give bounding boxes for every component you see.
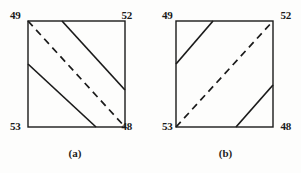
panel-b-corner-label-bottom-left: 53 xyxy=(162,121,173,132)
panel-b-caption: (b) xyxy=(150,148,301,159)
panel-b-drawing xyxy=(150,0,301,140)
figure-panel-b: 49 52 53 48 (b) xyxy=(150,0,301,173)
panel-b-main-dashed-diagonal xyxy=(176,21,273,127)
panel-b-corner-label-top-left: 49 xyxy=(162,10,173,21)
panel-a-corner-label-top-left: 49 xyxy=(10,10,21,21)
panel-b-upper-solid-diagonal xyxy=(176,21,213,64)
panel-a-drawing xyxy=(0,0,150,140)
figure-panel-a: 49 52 53 48 (a) xyxy=(0,0,150,173)
panel-a-corner-label-top-right: 52 xyxy=(121,10,132,21)
panel-a-upper-solid-diagonal xyxy=(62,21,125,90)
panel-a-lower-solid-diagonal xyxy=(28,64,96,127)
panel-a-caption: (a) xyxy=(0,148,150,159)
panel-b-lower-solid-diagonal xyxy=(236,85,273,127)
panel-b-corner-label-bottom-right: 48 xyxy=(280,121,291,132)
panel-b-corner-label-top-right: 52 xyxy=(280,10,291,21)
panel-a-corner-label-bottom-right: 48 xyxy=(121,121,132,132)
figure-root: 49 52 53 48 (a) 49 52 53 48 (b) xyxy=(0,0,301,173)
panel-a-corner-label-bottom-left: 53 xyxy=(10,121,21,132)
